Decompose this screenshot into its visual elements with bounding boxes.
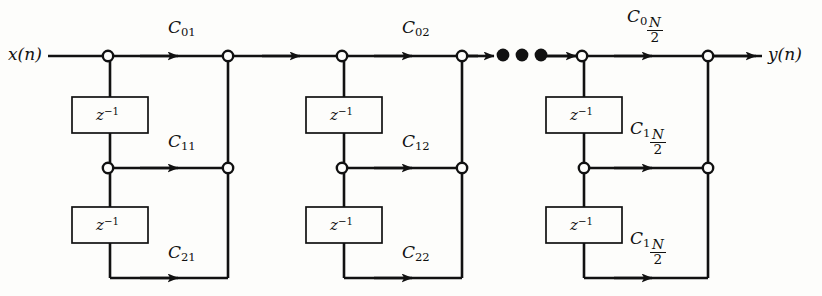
delay-exponent: −1 — [338, 106, 353, 117]
delay-base: z — [96, 106, 104, 124]
node — [103, 51, 113, 61]
coef-sub: 11 — [181, 139, 196, 153]
node — [703, 163, 713, 173]
delay-label-2-2: z−1 — [330, 217, 353, 233]
coef-sub: 1 — [643, 236, 650, 250]
node — [223, 51, 233, 61]
coef-base: C — [168, 17, 181, 37]
delay-exponent: −1 — [104, 106, 119, 117]
coef-sub: 02 — [415, 25, 430, 39]
coefficient-label-c1-n-over-2-bottom: C1N2 — [630, 230, 665, 267]
node — [103, 163, 113, 173]
delay-exponent: −1 — [578, 216, 593, 227]
coef-base: C — [402, 17, 415, 37]
coef-base: C — [168, 242, 181, 262]
fraction-n-over-2: N2 — [648, 16, 662, 45]
delay-label-last-2: z−1 — [570, 217, 593, 233]
coefficient-label-c21: C21 — [168, 244, 196, 264]
coef-base: C — [168, 131, 181, 151]
node — [579, 163, 589, 173]
coef-base: C — [630, 118, 643, 138]
coefficient-label-c11: C11 — [168, 133, 196, 153]
coef-sub: 22 — [415, 250, 430, 264]
coef-base: C — [627, 6, 640, 26]
coef-base: C — [630, 228, 643, 248]
fraction-numerator: N — [651, 128, 665, 142]
signal-flow-diagram: x(n) y(n) C01 C11 C21 C02 C12 C22 C0N2 C… — [0, 0, 822, 296]
coefficient-label-c12: C12 — [402, 133, 430, 153]
section-1-wires — [72, 56, 228, 278]
coefficient-label-c1-n-over-2-middle: C1N2 — [630, 120, 665, 157]
delay-exponent: −1 — [578, 106, 593, 117]
delay-base: z — [96, 216, 104, 234]
node — [703, 51, 713, 61]
coef-sub: 01 — [181, 25, 196, 39]
coef-base: C — [402, 242, 415, 262]
fraction-numerator: N — [651, 238, 665, 252]
delay-label-1-2: z−1 — [96, 217, 119, 233]
coefficient-label-c01: C01 — [168, 19, 196, 39]
delay-base: z — [330, 106, 338, 124]
fraction-denominator: 2 — [650, 142, 666, 157]
section-2-wires — [306, 56, 462, 278]
coefficient-label-c22: C22 — [402, 244, 430, 264]
coef-sub: 21 — [181, 250, 196, 264]
input-label: x(n) — [8, 46, 42, 63]
coefficient-label-c0-n-over-2: C0N2 — [627, 8, 662, 45]
node — [337, 163, 347, 173]
coef-sub: 1 — [643, 126, 650, 140]
delay-label-2-1: z−1 — [330, 107, 353, 123]
fraction-n-over-2: N2 — [651, 238, 665, 267]
delay-exponent: −1 — [104, 216, 119, 227]
coefficient-label-c02: C02 — [402, 19, 430, 39]
fraction-denominator: 2 — [647, 30, 663, 45]
delay-base: z — [570, 216, 578, 234]
node — [577, 51, 587, 61]
output-label: y(n) — [768, 46, 802, 63]
coef-sub: 0 — [640, 14, 647, 28]
fraction-denominator: 2 — [650, 252, 666, 267]
ellipsis-dots — [497, 49, 548, 62]
fraction-n-over-2: N2 — [651, 128, 665, 157]
section-last-wires — [546, 56, 708, 278]
coef-base: C — [402, 131, 415, 151]
delay-label-1-1: z−1 — [96, 107, 119, 123]
node — [457, 163, 467, 173]
coef-sub: 12 — [415, 139, 430, 153]
node — [223, 163, 233, 173]
fraction-numerator: N — [648, 16, 662, 30]
node — [457, 51, 467, 61]
delay-base: z — [570, 106, 578, 124]
delay-label-last-1: z−1 — [570, 107, 593, 123]
node — [337, 51, 347, 61]
delay-exponent: −1 — [338, 216, 353, 227]
delay-base: z — [330, 216, 338, 234]
